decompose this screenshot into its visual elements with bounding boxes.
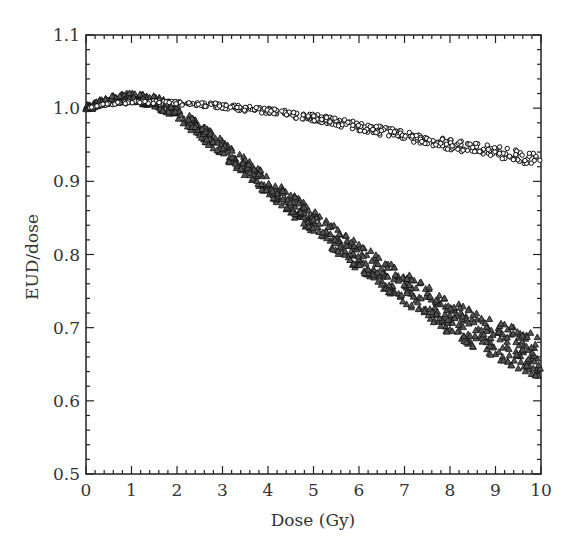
x-axis-label: Dose (Gy) — [271, 510, 356, 530]
y-axis-label: EUD/dose — [22, 214, 42, 300]
x-tick-label: 4 — [263, 480, 274, 500]
x-tick-label: 10 — [530, 480, 552, 500]
x-tick-label: 8 — [445, 480, 456, 500]
eud-dose-chart: 012345678910 0.50.60.70.80.91.01.1 Dose … — [0, 0, 568, 549]
x-tick-label: 7 — [399, 480, 410, 500]
x-tick-label: 6 — [354, 480, 365, 500]
data-series — [83, 90, 544, 378]
x-tick-label: 9 — [490, 480, 501, 500]
y-tick-label: 0.8 — [53, 245, 80, 265]
x-tick-label: 5 — [308, 480, 319, 500]
y-tick-label: 0.7 — [53, 318, 80, 338]
y-tick-label: 1.1 — [53, 25, 80, 45]
series-triangles — [83, 90, 544, 378]
y-tick-label: 0.5 — [53, 464, 80, 484]
x-tick-label: 3 — [217, 480, 228, 500]
y-tick-label: 0.6 — [53, 391, 80, 411]
x-tick-label: 1 — [126, 480, 137, 500]
y-tick-label: 1.0 — [53, 98, 80, 118]
x-tick-label: 2 — [172, 480, 183, 500]
y-tick-label: 0.9 — [53, 171, 80, 191]
x-tick-label: 0 — [81, 480, 92, 500]
